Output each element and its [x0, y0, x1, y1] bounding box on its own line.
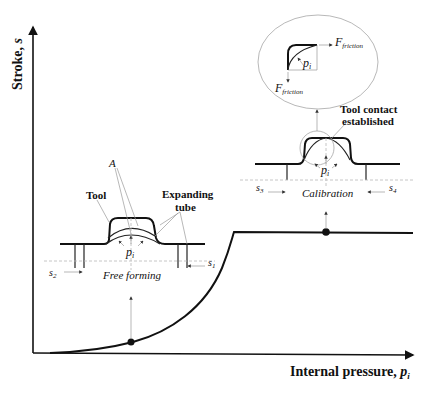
calibration-tube: [304, 138, 350, 160]
s1-label: s1: [208, 257, 215, 270]
stroke-pressure-curve: [50, 232, 413, 353]
diagram-canvas: Stroke, s Internal pressure, pi pi A: [0, 0, 432, 395]
contact-detail: pi Ffriction Ffriction: [258, 15, 378, 109]
detail-pressure-label: pi: [302, 56, 311, 71]
s2-label: s2: [49, 267, 57, 280]
calibration-sketch: pi s3 s4 Calibration Tool contact establ…: [240, 103, 415, 199]
tube-leader: [155, 213, 178, 236]
tool-outline: [60, 218, 205, 244]
free-forming-title: Free forming: [102, 269, 161, 281]
pressure-arrow-left: [119, 241, 124, 246]
calibration-title: Calibration: [302, 187, 354, 199]
s3-label: s3: [256, 182, 264, 195]
free-forming-point: [128, 339, 135, 346]
contact-label-1: Tool contact: [340, 103, 398, 115]
calibration-tool-outline: [255, 138, 400, 164]
tool-leader: [97, 200, 109, 222]
contact-label-2: established: [342, 115, 394, 127]
point-a-label: A: [108, 157, 116, 169]
cal-pressure-label: pi: [320, 163, 329, 178]
friction-label-right: Ffriction: [334, 35, 363, 50]
pressure-arrow-right: [138, 241, 143, 246]
friction-label-bottom: Ffriction: [274, 81, 303, 96]
tube-leader-3: [180, 212, 187, 244]
x-axis-label: Internal pressure, pi: [290, 364, 410, 381]
expanding-tube-label-1: Expanding: [162, 188, 214, 200]
cal-pressure-arrow-right: [332, 164, 337, 168]
x-axis: [33, 353, 413, 355]
tool-label: Tool: [86, 189, 106, 201]
expanding-tube-label-2: tube: [175, 201, 196, 213]
s4-label: s4: [389, 182, 397, 195]
y-axis-label: Stroke, s: [10, 38, 25, 90]
calibration-point: [322, 228, 330, 236]
tube-leader-2: [160, 212, 180, 225]
expanding-tube-lower: [106, 235, 160, 244]
free-forming-sketch: pi A Tool Expanding tube s2 s1 Free form…: [44, 157, 215, 281]
free-pressure-label: pi: [125, 245, 134, 260]
